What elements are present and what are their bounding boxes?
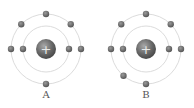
electron xyxy=(120,46,126,52)
electron xyxy=(43,81,49,87)
atom-a: + xyxy=(8,11,84,87)
electron xyxy=(78,46,84,52)
electron xyxy=(143,81,149,87)
atom-a-label: A xyxy=(36,89,56,100)
electron xyxy=(8,46,14,52)
plus-sign: + xyxy=(141,42,152,57)
electron xyxy=(43,11,49,17)
electron xyxy=(66,46,72,52)
atom-diagram: ++ xyxy=(0,0,194,108)
electron xyxy=(143,11,149,17)
electron xyxy=(18,21,24,27)
electron xyxy=(68,21,74,27)
electron xyxy=(118,21,124,27)
plus-sign: + xyxy=(41,42,52,57)
electron xyxy=(168,21,174,27)
electron xyxy=(108,46,114,52)
electron xyxy=(166,46,172,52)
electron xyxy=(20,46,26,52)
electron xyxy=(120,73,126,79)
electron xyxy=(178,46,184,52)
atom-b: + xyxy=(108,11,184,87)
atom-b-label: B xyxy=(136,89,156,100)
